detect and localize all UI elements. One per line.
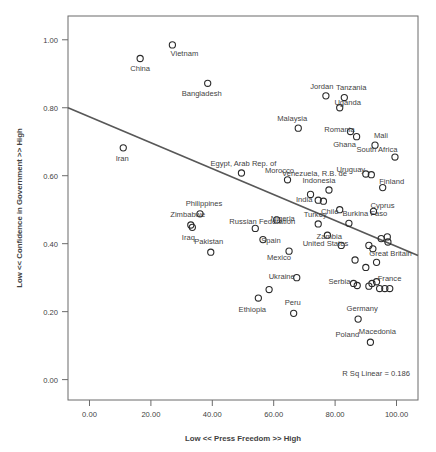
data-point-marker bbox=[120, 145, 126, 151]
data-point-label: Finland bbox=[379, 177, 404, 186]
data-point-label: Malaysia bbox=[277, 114, 308, 123]
data-point-label: South Africa bbox=[356, 145, 398, 154]
data-point-label: Pakistan bbox=[194, 237, 223, 246]
scatter-plot-figure: 0.0020.0040.0060.0080.00100.000.000.200.… bbox=[0, 0, 436, 452]
x-tick-label: 40.00 bbox=[203, 410, 222, 419]
data-point-marker bbox=[352, 257, 358, 263]
x-tick-label: 0.00 bbox=[82, 410, 97, 419]
regression-line bbox=[68, 108, 418, 256]
y-tick-label: 0.40 bbox=[43, 240, 58, 249]
data-point-label: Macedonia bbox=[359, 327, 397, 336]
linear-fit-line bbox=[68, 108, 418, 256]
data-point-marker bbox=[137, 55, 143, 61]
y-tick-label: 1.00 bbox=[43, 36, 58, 45]
data-point-label: Ukraine bbox=[269, 272, 295, 281]
data-point-label: Ethiopia bbox=[239, 305, 267, 314]
data-point-label: Poland bbox=[336, 330, 360, 339]
x-axis-title: Low << Press Freedom >> High bbox=[185, 434, 301, 443]
plot-frame bbox=[68, 16, 418, 400]
data-point-label: Russian Federation bbox=[229, 217, 295, 226]
data-point-labels: VietnamChinaBangladeshJordanTanzaniaUgan… bbox=[116, 49, 412, 339]
data-point-marker bbox=[291, 310, 297, 316]
data-point-marker bbox=[346, 220, 352, 226]
data-point-label: Zimbabwe bbox=[170, 210, 205, 219]
data-point-label: Jordan bbox=[310, 82, 333, 91]
data-point-marker bbox=[323, 93, 329, 99]
r-squared-annotation: R Sq Linear = 0.186 bbox=[342, 369, 410, 378]
y-tick-label: 0.60 bbox=[43, 172, 58, 181]
data-point-label: Peru bbox=[285, 298, 301, 307]
x-tick-label: 60.00 bbox=[264, 410, 283, 419]
data-point-label: Serbia bbox=[329, 277, 352, 286]
y-tick-label: 0.00 bbox=[43, 376, 58, 385]
data-point-label: Great Britain bbox=[369, 249, 412, 258]
data-point-label: Turkey bbox=[304, 210, 327, 219]
data-point-label: Indonesia bbox=[302, 176, 336, 185]
data-point-marker bbox=[169, 42, 175, 48]
annotation-layer: R Sq Linear = 0.186 bbox=[342, 369, 410, 378]
data-point-marker bbox=[363, 264, 369, 270]
data-point-marker bbox=[355, 316, 361, 322]
data-point-label: China bbox=[130, 64, 151, 73]
data-point-marker bbox=[367, 339, 373, 345]
data-point-marker bbox=[266, 286, 272, 292]
y-tick-label: 0.80 bbox=[43, 104, 58, 113]
data-point-marker bbox=[366, 242, 372, 248]
data-point-label: India bbox=[296, 195, 313, 204]
data-point-marker bbox=[354, 282, 360, 288]
data-point-marker bbox=[373, 259, 379, 265]
data-point-label: Mexico bbox=[267, 253, 291, 262]
data-point-label: Ghana bbox=[333, 140, 357, 149]
data-point-marker bbox=[315, 221, 321, 227]
data-point-label: Spain bbox=[261, 236, 280, 245]
plot-border bbox=[68, 16, 418, 400]
data-point-label: Zambia bbox=[317, 232, 343, 241]
data-point-marker bbox=[392, 154, 398, 160]
y-axis-title: Low << Confidence in Government >> High bbox=[15, 128, 24, 288]
data-point-marker bbox=[238, 170, 244, 176]
data-point-label: Bangladesh bbox=[182, 89, 222, 98]
data-point-marker bbox=[255, 295, 261, 301]
x-tick-label: 20.00 bbox=[141, 410, 160, 419]
data-point-marker bbox=[326, 187, 332, 193]
data-point-label: Burkina Faso bbox=[343, 209, 388, 218]
data-point-marker bbox=[295, 125, 301, 131]
x-tick-label: 80.00 bbox=[326, 410, 345, 419]
data-point-label: Uganda bbox=[334, 98, 361, 107]
data-point-label: France bbox=[378, 274, 402, 283]
data-point-label: Romania bbox=[324, 125, 355, 134]
data-point-label: Iran bbox=[116, 154, 129, 163]
data-point-marker bbox=[208, 249, 214, 255]
data-point-label: Germany bbox=[347, 304, 378, 313]
data-point-label: Mali bbox=[374, 131, 388, 140]
data-point-label: Tanzania bbox=[336, 83, 367, 92]
data-point-marker bbox=[205, 80, 211, 86]
plot-canvas: 0.0020.0040.0060.0080.00100.000.000.200.… bbox=[0, 0, 436, 452]
data-point-marker bbox=[350, 280, 356, 286]
data-point-label: Philippines bbox=[186, 199, 223, 208]
data-point-label: Iraq bbox=[182, 233, 195, 242]
data-point-label: Uruguay bbox=[336, 165, 365, 174]
x-tick-label: 100.00 bbox=[385, 410, 408, 419]
y-tick-label: 0.20 bbox=[43, 308, 58, 317]
data-point-label: Vietnam bbox=[171, 49, 199, 58]
